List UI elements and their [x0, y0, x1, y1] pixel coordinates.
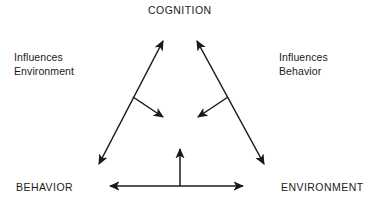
annotation-left-line1: Influences — [14, 51, 74, 65]
node-label-cognition: COGNITION — [148, 4, 212, 17]
right-inward-branch-arrow — [198, 97, 228, 117]
annotation-right-line1: Influences — [279, 51, 328, 65]
diagram-canvas: COGNITION BEHAVIOR ENVIRONMENT Influence… — [0, 0, 381, 212]
node-label-environment: ENVIRONMENT — [281, 181, 364, 194]
node-label-behavior: BEHAVIOR — [16, 181, 73, 194]
annotation-influences-behavior: Influences Behavior — [279, 51, 328, 78]
cognition-environment-arrow — [197, 41, 264, 164]
annotation-influences-environment: Influences Environment — [14, 51, 74, 78]
left-inward-branch-arrow — [133, 97, 163, 117]
annotation-right-line2: Behavior — [279, 65, 328, 79]
annotation-left-line2: Environment — [14, 65, 74, 79]
behavior-cognition-arrow — [99, 41, 163, 164]
